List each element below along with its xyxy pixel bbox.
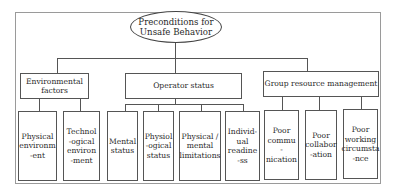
leaf-label-line: status [147, 151, 170, 161]
connector-level2-bus [57, 58, 307, 59]
leaf-label-line: Physical / [182, 132, 219, 142]
category-label-line: Environmental [26, 77, 83, 87]
connector-group-collaboration [319, 97, 320, 110]
leaf-technological-environment: Technol -ogical environ -ment [63, 111, 100, 181]
leaf-physical-environment: Physical environm -ent [18, 111, 57, 181]
root-label-line-1: Preconditions for [138, 17, 213, 27]
connector-operator-mental [125, 104, 126, 111]
connector-env [57, 58, 58, 73]
connector-group-communication [282, 97, 283, 110]
leaf-poor-working-circumstance: Poor working circumsta -nce [343, 109, 378, 179]
leaf-label-line: collabor [305, 140, 336, 150]
category-label-line: Group resource management [265, 79, 378, 89]
leaf-label-line: Mental [109, 137, 136, 147]
leaf-label-line: commu [267, 136, 295, 146]
leaf-label-line: environ [67, 146, 96, 156]
category-label-line: Operator status [153, 81, 214, 91]
leaf-label-line: ual [237, 137, 249, 147]
leaf-label-line: Individ- [228, 127, 257, 137]
root-label-line-2: Unsafe Behavior [140, 27, 212, 37]
leaf-poor-communication: Poor commu -nication [264, 110, 299, 180]
leaf-label-line: -nication [265, 145, 298, 164]
leaf-label-line: -ation [310, 150, 332, 160]
leaf-label-line: Physiol [145, 132, 173, 142]
leaf-label-line: environm [19, 141, 55, 151]
leaf-label-line: circumsta [341, 144, 379, 154]
leaf-label-line: readine [228, 146, 257, 156]
leaf-label-line: limitations [180, 151, 221, 161]
category-environmental-factors: Environmental factors [20, 73, 89, 99]
leaf-label-line: -nce [352, 154, 368, 164]
leaf-label-line: Poor [352, 125, 370, 135]
leaf-label-line: -ss [237, 156, 247, 166]
connector-operator-readiness [243, 104, 244, 111]
leaf-label-line: -ogical [146, 141, 172, 151]
category-operator-status: Operator status [125, 73, 242, 99]
leaf-label-line: -ogical [69, 137, 95, 147]
leaf-label-line: mental [187, 141, 214, 151]
leaf-physical-mental-limitations: Physical / mental limitations [179, 111, 221, 181]
connector-operator [175, 58, 176, 73]
leaf-label-line: Physical [22, 132, 54, 142]
leaf-label-line: Poor [273, 126, 291, 136]
connector-env-technological [80, 99, 81, 111]
category-label-line: factors [41, 86, 68, 96]
leaf-mental-status: Mental status [107, 111, 138, 181]
leaf-poor-collaboration: Poor collabor -ation [305, 110, 337, 180]
root-node-preconditions: Preconditions for Unsafe Behavior [130, 11, 222, 43]
leaf-label-line: -ent [30, 151, 45, 161]
leaf-label-line: Poor [312, 131, 330, 141]
connector-env-physical [39, 99, 40, 111]
connector-operator-bus [125, 104, 243, 105]
leaf-label-line: Technol [66, 127, 96, 137]
connector-operator-limitations [201, 104, 202, 111]
leaf-physiological-status: Physiol -ogical status [143, 111, 174, 181]
leaf-individual-readiness: Individ- ual readine -ss [225, 111, 260, 181]
leaf-label-line: -ment [70, 156, 92, 166]
connector-operator-physiological [158, 104, 159, 111]
category-group-resource-management: Group resource management [263, 71, 379, 97]
connector-root [175, 43, 176, 58]
leaf-label-line: status [111, 146, 134, 156]
leaf-label-line: working [345, 135, 376, 145]
